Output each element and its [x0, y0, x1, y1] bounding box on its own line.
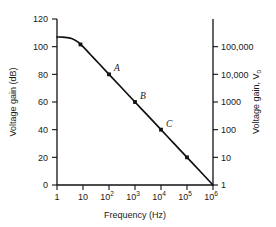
data-point-marker	[159, 128, 163, 132]
x-tick-label-10: 10	[78, 192, 88, 202]
point-annotations: ABC	[113, 63, 173, 128]
x-axis-title: Frequency (Hz)	[104, 210, 166, 220]
y-axis-title-left: Voltage gain (dB)	[8, 67, 18, 136]
y2-tick-label-10: 10	[221, 153, 231, 163]
x-tick-label-1e4: 104	[152, 190, 166, 202]
data-point-marker	[133, 100, 137, 104]
y-tick-label-40: 40	[38, 125, 48, 135]
y2-tick-label-100000: 100,000	[221, 42, 254, 52]
x-tick-label-1e2: 102	[100, 190, 114, 202]
y2-tick-label-1000: 1000	[221, 97, 241, 107]
point-label-b: B	[140, 91, 146, 101]
y-tick-label-100: 100	[33, 42, 48, 52]
y2-tick-label-1: 1	[221, 180, 226, 190]
y-tick-label-60: 60	[38, 97, 48, 107]
data-point-marker	[107, 72, 111, 76]
bode-plot-figure: 0 20 40 60 80 100 120 1 10 100 1000 10,0…	[0, 0, 276, 227]
data-point-marker	[185, 155, 189, 159]
data-point-marker	[79, 43, 83, 47]
y2-tick-label-100: 100	[221, 125, 236, 135]
y-tick-label-20: 20	[38, 153, 48, 163]
x-tick-label-1e3: 103	[126, 190, 140, 202]
point-label-c: C	[166, 119, 173, 129]
x-tick-label-1e5: 105	[178, 190, 192, 202]
point-label-a: A	[113, 63, 120, 73]
x-tick-label-1e6: 106	[204, 190, 218, 202]
x-tick-label-1: 1	[54, 192, 59, 202]
y-tick-label-0: 0	[43, 180, 48, 190]
y-axis-title-right: Voltage gain, Vo	[251, 70, 262, 135]
y-axis-left-labels: 0 20 40 60 80 100 120	[33, 14, 48, 190]
x-axis-labels: 1 10 102 103 104 105 106	[54, 190, 218, 202]
y2-tick-label-10000: 10,000	[221, 70, 249, 80]
y-tick-label-120: 120	[33, 14, 48, 24]
gain-curve	[57, 37, 213, 185]
y-axis-left-ticks	[52, 19, 57, 185]
y-axis-right-labels: 1 10 100 1000 10,000 100,000	[221, 42, 254, 190]
y-tick-label-80: 80	[38, 70, 48, 80]
chart-canvas: 0 20 40 60 80 100 120 1 10 100 1000 10,0…	[0, 0, 276, 227]
y-axis-right-ticks	[213, 47, 218, 185]
